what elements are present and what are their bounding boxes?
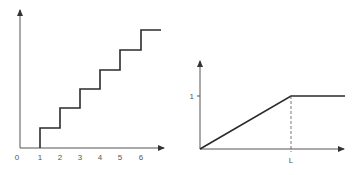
left-tick-6: 6	[139, 153, 144, 162]
figure-canvas: 0 1 2 3 4 5 6 1 L	[0, 0, 362, 175]
left-tick-3: 3	[78, 153, 83, 162]
ramp-line	[200, 96, 345, 149]
step-chart: 0 1 2 3 4 5 6	[15, 10, 164, 162]
ramp-chart: 1 L	[190, 61, 345, 165]
left-tick-1: 1	[38, 153, 43, 162]
left-tick-2: 2	[58, 153, 63, 162]
staircase-line	[40, 30, 161, 148]
right-y-tick-label: 1	[190, 92, 195, 101]
left-origin-label: 0	[15, 153, 20, 162]
left-tick-4: 4	[98, 153, 103, 162]
left-tick-5: 5	[118, 153, 123, 162]
right-x-tick-label: L	[289, 156, 294, 165]
